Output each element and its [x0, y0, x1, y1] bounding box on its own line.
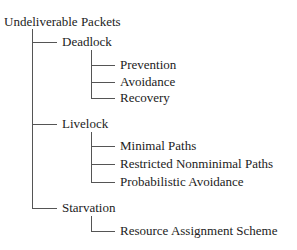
connector-recovery: [91, 98, 115, 99]
connector-starvation-trunk: [91, 216, 92, 232]
connector-avoidance: [91, 82, 115, 83]
connector-livelock: [32, 124, 57, 125]
connector-probabilistic-avoidance: [91, 182, 115, 183]
connector-livelock-trunk: [91, 132, 92, 183]
connector-resource-assignment: [91, 231, 115, 232]
connector-starvation: [32, 208, 57, 209]
node-starvation: Starvation: [62, 201, 115, 215]
node-resource-assignment-scheme: Resource Assignment Scheme: [120, 224, 277, 238]
node-avoidance: Avoidance: [120, 75, 175, 89]
node-restricted-nonminimal-paths: Restricted Nonminimal Paths: [120, 157, 273, 171]
node-recovery: Recovery: [120, 91, 170, 105]
connector-trunk: [32, 29, 33, 209]
root-node-label: Undeliverable Packets: [4, 15, 121, 29]
node-deadlock: Deadlock: [62, 35, 112, 49]
connector-deadlock-trunk: [91, 50, 92, 99]
node-minimal-paths: Minimal Paths: [120, 139, 196, 153]
connector-deadlock: [32, 42, 57, 43]
connector-prevention: [91, 65, 115, 66]
node-probabilistic-avoidance: Probabilistic Avoidance: [120, 175, 244, 189]
connector-minimal-paths: [91, 146, 115, 147]
connector-restricted-nonminimal-paths: [91, 164, 115, 165]
node-livelock: Livelock: [62, 117, 108, 131]
node-prevention: Prevention: [120, 58, 176, 72]
